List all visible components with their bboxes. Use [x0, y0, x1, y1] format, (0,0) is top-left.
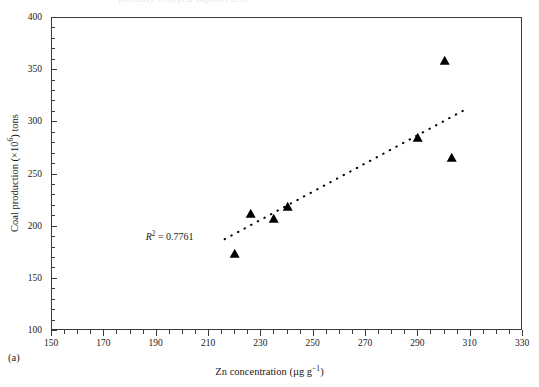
x-tick-major — [313, 330, 314, 336]
x-tick-minor — [77, 330, 78, 334]
y-tick-minor — [51, 299, 55, 300]
y-tick-major — [51, 17, 57, 18]
x-tick-major — [522, 330, 523, 336]
x-tick-major — [260, 330, 261, 336]
y-tick-minor — [51, 257, 55, 258]
x-tick-minor — [195, 330, 196, 334]
x-tick-label: 330 — [515, 338, 529, 348]
data-point-marker — [413, 133, 423, 142]
x-tick-major — [156, 330, 157, 336]
figure-panel-a: partially cropped caption text 150170190… — [0, 0, 539, 387]
cropped-caption-text: partially cropped caption text — [118, 0, 247, 4]
y-tick-minor — [51, 163, 55, 164]
x-tick-minor — [130, 330, 131, 334]
x-tick-label: 290 — [410, 338, 424, 348]
x-tick-minor — [116, 330, 117, 334]
y-tick-minor — [51, 59, 55, 60]
x-tick-minor — [300, 330, 301, 334]
x-tick-minor — [143, 330, 144, 334]
y-axis-exponent: 6 — [6, 138, 15, 142]
y-tick-label: 100 — [28, 325, 42, 335]
y-tick-minor — [51, 184, 55, 185]
x-tick-minor — [326, 330, 327, 334]
data-point-marker — [246, 209, 256, 218]
y-axis-title-tail: ) tons — [9, 114, 20, 138]
x-tick-minor — [182, 330, 183, 334]
y-tick-minor — [51, 132, 55, 133]
x-axis-title-main: Zn concentration ( — [215, 366, 293, 377]
y-tick-minor — [51, 27, 55, 28]
y-tick-label: 200 — [28, 221, 42, 231]
plot-area — [51, 17, 522, 330]
x-tick-minor — [444, 330, 445, 334]
x-tick-major — [365, 330, 366, 336]
y-tick-minor — [51, 309, 55, 310]
x-tick-minor — [404, 330, 405, 334]
y-tick-minor — [51, 215, 55, 216]
y-tick-minor — [51, 90, 55, 91]
x-axis-title: Zn concentration (µg g−1) — [0, 366, 539, 377]
x-tick-minor — [64, 330, 65, 334]
trend-line — [52, 18, 523, 331]
plot-inner — [52, 18, 521, 329]
y-axis-title: Coal production (×106) tons — [9, 114, 20, 232]
r-squared-annotation: R2 = 0.7761 — [146, 231, 194, 242]
y-tick-major — [51, 278, 57, 279]
x-tick-label: 310 — [463, 338, 477, 348]
y-tick-minor — [51, 111, 55, 112]
trend-line-path — [225, 111, 463, 239]
y-axis-ticks: 100150200250300350400 — [51, 17, 59, 330]
y-tick-label: 250 — [28, 169, 42, 179]
x-tick-minor — [483, 330, 484, 334]
x-tick-minor — [234, 330, 235, 334]
x-tick-label: 270 — [358, 338, 372, 348]
data-point-marker — [269, 214, 279, 223]
x-tick-minor — [352, 330, 353, 334]
y-tick-minor — [51, 267, 55, 268]
x-tick-minor — [247, 330, 248, 334]
x-tick-minor — [221, 330, 222, 334]
y-tick-major — [51, 121, 57, 122]
x-tick-minor — [169, 330, 170, 334]
data-point-marker — [282, 202, 292, 211]
cropped-caption-strip: partially cropped caption text — [0, 0, 539, 9]
y-tick-label: 400 — [28, 12, 42, 22]
x-tick-label: 190 — [149, 338, 163, 348]
y-axis-title-main: Coal production (×10 — [9, 141, 20, 232]
x-tick-minor — [378, 330, 379, 334]
y-tick-minor — [51, 80, 55, 81]
x-tick-label: 210 — [201, 338, 215, 348]
r2-value: 0.7761 — [166, 231, 194, 242]
x-tick-minor — [273, 330, 274, 334]
y-tick-major — [51, 226, 57, 227]
data-point-marker — [439, 56, 449, 65]
y-tick-major — [51, 69, 57, 70]
x-tick-label: 170 — [96, 338, 110, 348]
y-tick-minor — [51, 236, 55, 237]
x-tick-major — [470, 330, 471, 336]
x-tick-minor — [391, 330, 392, 334]
y-tick-minor — [51, 288, 55, 289]
x-tick-label: 230 — [253, 338, 267, 348]
y-tick-minor — [51, 48, 55, 49]
x-tick-minor — [496, 330, 497, 334]
y-tick-major — [51, 174, 57, 175]
data-point-marker — [447, 153, 457, 162]
y-tick-minor — [51, 142, 55, 143]
r2-equals: = — [155, 231, 166, 242]
x-tick-minor — [339, 330, 340, 334]
y-tick-major — [51, 330, 57, 331]
x-tick-label: 150 — [44, 338, 58, 348]
x-axis-title-close: ) — [320, 366, 324, 377]
x-tick-major — [103, 330, 104, 336]
y-tick-label: 350 — [28, 64, 42, 74]
y-tick-minor — [51, 38, 55, 39]
data-point-marker — [230, 249, 240, 258]
y-tick-label: 300 — [28, 116, 42, 126]
x-tick-minor — [90, 330, 91, 334]
x-tick-label: 250 — [306, 338, 320, 348]
y-tick-minor — [51, 247, 55, 248]
panel-label: (a) — [8, 352, 20, 363]
x-tick-major — [208, 330, 209, 336]
x-axis-unit: µg g — [293, 366, 312, 377]
